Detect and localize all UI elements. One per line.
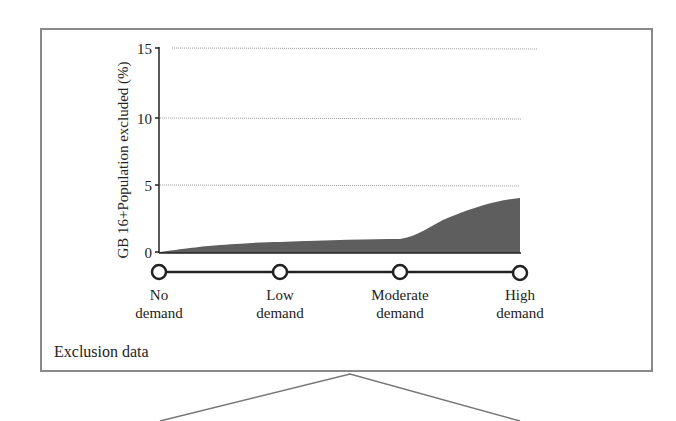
- demand-marker-no: [152, 265, 166, 279]
- y-tick-15: 15: [137, 41, 152, 57]
- gridline-5: [160, 185, 520, 186]
- demand-marker-moderate: [393, 265, 407, 279]
- exclusion-area: [160, 198, 520, 253]
- connector-lines: [160, 374, 520, 421]
- panel-caption: Exclusion data: [54, 343, 149, 361]
- gridline-15: [172, 48, 537, 49]
- category-label-low-demand: Low demand: [225, 286, 335, 322]
- y-tick-0: 0: [145, 245, 153, 261]
- demand-marker-low: [273, 265, 287, 279]
- y-tick-10: 10: [137, 111, 152, 127]
- category-label-no-demand: No demand: [104, 286, 214, 322]
- category-label-moderate-demand: Moderate demand: [345, 286, 455, 322]
- category-label-high-demand: High demand: [465, 286, 575, 322]
- gridline-10: [160, 118, 522, 119]
- demand-marker-high: [513, 266, 527, 280]
- y-tick-5: 5: [145, 178, 153, 194]
- y-axis-title: GB 16+Population excluded (%): [115, 61, 132, 258]
